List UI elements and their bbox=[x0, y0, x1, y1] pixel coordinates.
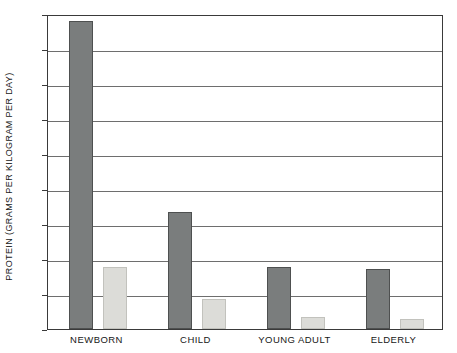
gridline bbox=[48, 156, 442, 157]
gridline bbox=[48, 226, 442, 227]
gridline bbox=[48, 261, 442, 262]
plot-area bbox=[47, 15, 443, 330]
bar-young-adult-series-1 bbox=[267, 267, 291, 329]
x-axis-label-child: CHILD bbox=[180, 334, 211, 345]
x-axis-label-newborn: NEWBORN bbox=[70, 334, 123, 345]
bar-child-series-1 bbox=[168, 212, 192, 329]
x-axis-label-young-adult: YOUNG ADULT bbox=[258, 334, 330, 345]
bar-elderly-series-2 bbox=[400, 319, 424, 329]
x-axis-label-elderly: ELDERLY bbox=[371, 334, 417, 345]
gridline bbox=[48, 86, 442, 87]
gridline bbox=[48, 121, 442, 122]
bar-young-adult-series-2 bbox=[301, 317, 325, 329]
bar-newborn-series-2 bbox=[103, 267, 127, 329]
bar-elderly-series-1 bbox=[366, 269, 390, 329]
y-axis-title: PROTEIN (GRAMS PER KILOGRAM PER DAY) bbox=[0, 0, 18, 353]
bar-chart: PROTEIN (GRAMS PER KILOGRAM PER DAY) 024… bbox=[0, 0, 457, 353]
bar-child-series-2 bbox=[202, 299, 226, 329]
bar-newborn-series-1 bbox=[69, 21, 93, 329]
gridline bbox=[48, 191, 442, 192]
gridline bbox=[48, 51, 442, 52]
